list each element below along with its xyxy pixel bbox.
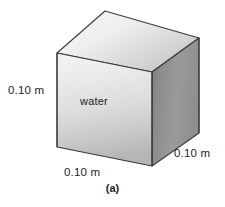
cube-front-face <box>57 53 152 166</box>
figure-container: 0.10 m 0.10 m 0.10 m water (a) <box>0 0 225 207</box>
cube-illustration <box>0 0 225 207</box>
depth-dimension-label: 0.10 m <box>174 147 210 159</box>
width-dimension-label: 0.10 m <box>64 166 100 178</box>
figure-caption: (a) <box>0 182 225 194</box>
height-dimension-label: 0.10 m <box>8 84 44 96</box>
substance-label: water <box>80 95 108 107</box>
